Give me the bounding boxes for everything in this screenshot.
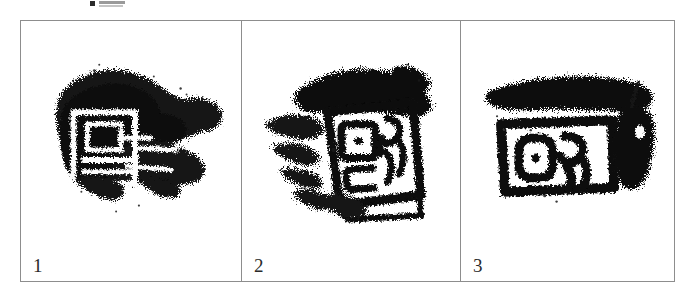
- caption-fragment-mark: [90, 1, 95, 6]
- cropped-caption-fragment: [88, 0, 128, 7]
- cropped-bottom-caption-fragment: [150, 289, 270, 295]
- panel-number-2: 2: [254, 256, 264, 275]
- panel-number-1: 1: [33, 256, 43, 275]
- seal-rubbing-image-1: [21, 21, 241, 281]
- figure-panel-table: 1: [20, 20, 675, 282]
- figure-panel-1: 1: [21, 21, 241, 281]
- figure-panel-2: 2: [241, 21, 460, 281]
- caption-fragment-bar: [99, 1, 125, 4]
- figure-panel-3: 3: [460, 21, 674, 281]
- seal-rubbing-image-3: [461, 21, 674, 281]
- seal-rubbing-image-2: [242, 21, 460, 281]
- caption-fragment-bar-secondary: [99, 5, 123, 7]
- panel-number-3: 3: [473, 256, 483, 275]
